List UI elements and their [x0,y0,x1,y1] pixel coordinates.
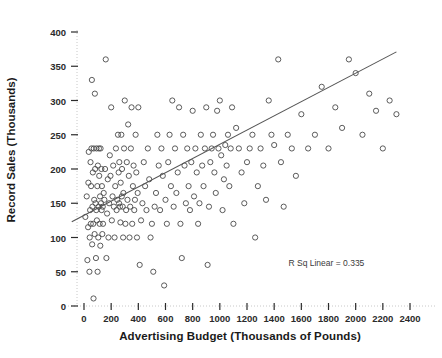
x-axis-tick-label: 2200 [372,313,393,324]
data-point [110,194,115,199]
data-point [206,204,211,209]
data-point [326,146,331,151]
data-point [168,184,173,189]
data-point [121,146,126,151]
data-point [104,211,109,216]
data-point [152,204,157,209]
y-axis-tick-label: 50 [34,266,66,277]
data-point [187,208,192,213]
data-point [107,153,112,158]
data-point [215,108,220,113]
data-point [111,204,116,209]
data-point [112,235,117,240]
data-point [231,221,236,226]
r-squared-annotation: R Sq Linear = 0.335 [289,258,365,268]
data-point [234,125,239,130]
data-point [122,98,127,103]
data-point [228,146,233,151]
data-point [117,160,122,165]
x-axis-ticks [84,303,410,310]
data-point [319,84,324,89]
data-point [197,201,202,206]
data-point [266,98,271,103]
data-point [108,173,113,178]
data-point [128,146,133,151]
y-axis-title: Record Sales (Thousands) [2,0,20,300]
y-axis-tick-label: 400 [34,27,66,38]
data-point [293,173,298,178]
data-point [145,146,150,151]
data-point [276,57,281,62]
data-point [87,269,92,274]
data-point [216,146,221,151]
data-point [202,146,207,151]
data-point [121,235,126,240]
data-point [179,255,184,260]
data-point [213,190,218,195]
y-axis-tick-label: 200 [34,164,66,175]
axis-lines [62,30,436,306]
data-point [99,208,104,213]
x-axis-tick-label: 2000 [345,313,366,324]
data-point [210,132,215,137]
x-axis-tick-label: 0 [81,313,86,324]
y-axis-tick-label: 150 [34,198,66,209]
data-point [159,146,164,151]
data-point [333,105,338,110]
data-point [269,132,274,137]
data-point [155,132,160,137]
data-point [104,255,109,260]
data-point [167,132,172,137]
data-point [113,146,118,151]
data-point [134,170,139,175]
data-point [221,177,226,182]
x-axis-tick-label: 600 [158,313,174,324]
data-point [175,170,180,175]
data-point [387,98,392,103]
data-point [255,184,260,189]
data-point [87,235,92,240]
data-point [224,163,229,168]
data-point [130,221,135,226]
data-point [360,132,365,137]
data-point [194,170,199,175]
data-point [261,163,266,168]
data-point [171,204,176,209]
data-point [157,208,162,213]
data-point [135,190,140,195]
x-axis-tick-label: 1000 [209,313,230,324]
data-point [105,177,110,182]
data-point [100,221,105,226]
data-point [299,112,304,117]
data-point [186,184,191,189]
data-point [172,146,177,151]
data-point [148,235,153,240]
data-point [133,132,138,137]
data-point [111,163,116,168]
data-point [129,105,134,110]
data-point [247,146,252,151]
x-axis-tick-label: 1800 [318,313,339,324]
data-point [124,160,129,165]
data-point [132,197,137,202]
data-point [219,153,224,158]
data-point [394,112,399,117]
data-point [141,160,146,165]
data-point [85,258,90,263]
scatter-plot-figure: Record Sales (Thousands) Advertising Bud… [0,0,442,358]
data-point [137,262,142,267]
data-point [253,235,258,240]
data-point [183,201,188,206]
data-point [91,296,96,301]
data-point [132,208,137,213]
data-point [94,218,99,223]
data-point [149,221,154,226]
data-point [102,166,107,171]
y-axis-tick-label: 300 [34,95,66,106]
data-point [92,197,97,202]
data-point [229,105,234,110]
x-axis-title: Advertising Budget (Thousands of Pounds) [0,330,442,342]
data-point [130,184,135,189]
y-axis-title-container: Record Sales (Thousands) [2,0,20,358]
data-point [100,231,105,236]
